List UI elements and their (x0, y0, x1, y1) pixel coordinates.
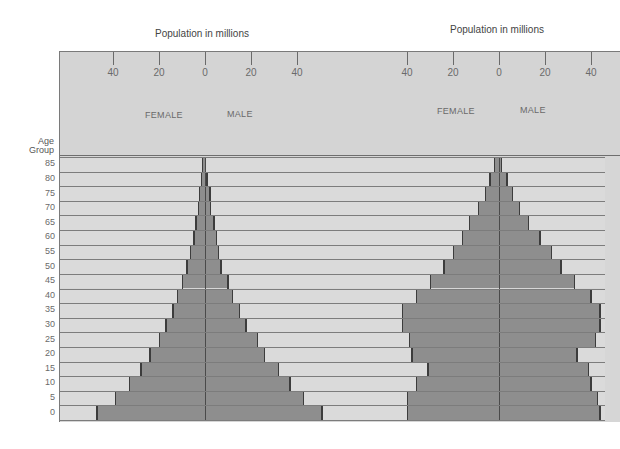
female-bar (430, 274, 499, 289)
age-row-background (60, 186, 605, 201)
male-bar-edge (519, 201, 521, 217)
male-bar (499, 186, 513, 201)
male-bar (499, 245, 552, 260)
female-bar (407, 391, 499, 406)
x-tick-label: 40 (285, 67, 309, 78)
age-row-gridline (60, 201, 605, 202)
male-bar-edge (574, 274, 576, 290)
x-tick-mark (591, 52, 592, 65)
male-bar-edge (590, 289, 592, 305)
female-bar-edge (96, 405, 98, 421)
age-row-background (60, 157, 605, 172)
male-bar (205, 318, 246, 333)
female-bar (196, 215, 205, 230)
age-group-label: 60 (30, 231, 55, 241)
female-bar (416, 289, 499, 304)
female-bar (453, 245, 499, 260)
female-bar-edge (478, 201, 480, 217)
female-bar-edge (201, 172, 203, 188)
age-group-label: 80 (30, 173, 55, 183)
female-bar-edge (469, 215, 471, 231)
age-group-label: 75 (30, 188, 55, 198)
x-tick-mark (499, 52, 500, 65)
female-bar (182, 274, 205, 289)
x-tick-label: 0 (487, 67, 511, 78)
age-row-gridline (60, 362, 605, 363)
male-bar (205, 245, 219, 260)
male-bar-edge (539, 230, 541, 246)
x-tick-label: 0 (193, 67, 217, 78)
female-bar (469, 215, 499, 230)
x-tick-label: 20 (441, 67, 465, 78)
male-bar-edge (506, 172, 508, 188)
female-bar-edge (195, 215, 197, 231)
age-group-label: 45 (30, 275, 55, 285)
age-row-gridline (60, 391, 605, 392)
female-bar-edge (190, 245, 192, 261)
female-bar-edge (443, 259, 445, 275)
female-bar-edge (485, 186, 487, 202)
age-group-label: 85 (30, 158, 55, 168)
female-bar-edge (186, 259, 188, 275)
female-bar (159, 332, 205, 347)
male-bar-edge (278, 362, 280, 378)
female-bar (177, 289, 205, 304)
male-bar (499, 230, 540, 245)
age-row-gridline (60, 347, 605, 348)
age-group-axis-title: Age Group (20, 137, 54, 155)
age-row-background (60, 172, 605, 187)
male-bar-edge (599, 303, 601, 319)
female-bar (428, 362, 499, 377)
age-group-label: 40 (30, 290, 55, 300)
male-bar-edge (595, 332, 597, 348)
age-group-title-line2: Group (20, 146, 54, 155)
right-female-label: FEMALE (437, 106, 475, 116)
age-group-label: 20 (30, 348, 55, 358)
male-bar (499, 347, 577, 362)
left-female-label: FEMALE (145, 110, 183, 120)
female-bar-edge (430, 274, 432, 290)
female-bar (129, 376, 205, 391)
male-bar-edge (588, 362, 590, 378)
female-bar-edge (402, 318, 404, 334)
age-row-gridline (60, 303, 605, 304)
female-bar-edge (199, 186, 201, 202)
x-tick-label: 20 (533, 67, 557, 78)
male-bar (499, 303, 600, 318)
male-bar-edge (206, 172, 208, 188)
female-bar-edge (129, 376, 131, 392)
male-bar (205, 391, 304, 406)
male-bar-edge (232, 289, 234, 305)
age-group-label: 50 (30, 261, 55, 271)
female-bar-edge (165, 318, 167, 334)
male-bar (205, 405, 322, 420)
age-row-background (60, 201, 605, 216)
male-bar-edge (576, 347, 578, 363)
age-group-label: 65 (30, 217, 55, 227)
age-row-gridline (60, 405, 605, 406)
female-bar-edge (202, 157, 204, 173)
female-bar (402, 318, 499, 333)
x-tick-mark (453, 52, 454, 65)
female-bar-edge (198, 201, 200, 217)
male-bar (499, 332, 596, 347)
age-row-gridline (60, 332, 605, 333)
x-tick-label: 40 (395, 67, 419, 78)
age-row-gridline (60, 289, 605, 290)
age-group-label: 10 (30, 377, 55, 387)
male-bar (499, 201, 520, 216)
female-bar (444, 259, 499, 274)
male-bar (205, 332, 258, 347)
male-bar-edge (239, 303, 241, 319)
right-male-label: MALE (520, 105, 546, 115)
age-group-label: 30 (30, 319, 55, 329)
female-bar-edge (494, 157, 496, 173)
female-bar-edge (416, 376, 418, 392)
x-tick-label: 40 (579, 67, 603, 78)
x-tick-mark (297, 52, 298, 65)
male-bar (205, 274, 228, 289)
male-bar-edge (597, 391, 599, 407)
age-row-gridline (60, 172, 605, 173)
age-row-gridline (60, 215, 605, 216)
female-bar-edge (407, 405, 409, 421)
